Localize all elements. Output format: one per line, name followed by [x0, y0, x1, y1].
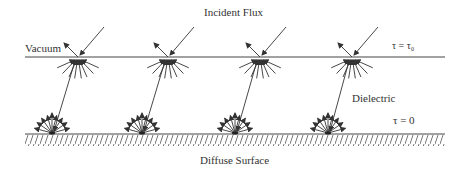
surface-hatching [25, 135, 445, 146]
incident-flux-title: Incident Flux [204, 6, 263, 18]
tau-bottom-label: τ = 0 [393, 114, 415, 126]
radiative-transfer-diagram [0, 0, 449, 172]
tau-top-label: τ = τ₀ [392, 40, 414, 51]
vacuum-label: Vacuum [25, 42, 61, 54]
dielectric-label: Dielectric [352, 92, 395, 104]
diffuse-surface-label: Diffuse Surface [200, 154, 269, 166]
